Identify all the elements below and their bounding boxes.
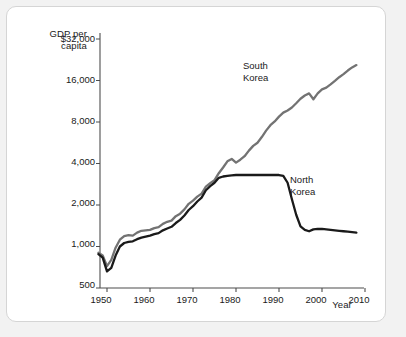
chart-plot-area <box>7 7 386 322</box>
chart-card: GDP per capita Year $32,000 16,000 8,000… <box>6 6 386 322</box>
series-line-south-korea <box>98 65 356 266</box>
series-line-north-korea <box>98 175 356 271</box>
screenshot-root: GDP per capita Year $32,000 16,000 8,000… <box>0 0 406 337</box>
axis-ticks <box>96 39 365 292</box>
